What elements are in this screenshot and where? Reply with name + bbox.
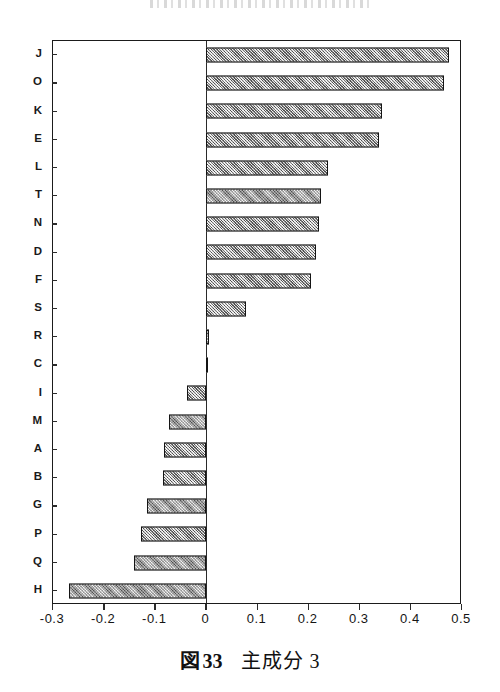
- caption-label: 図: [180, 650, 201, 672]
- bar-A: [164, 442, 206, 457]
- bar-P: [141, 527, 206, 542]
- plot-frame: [52, 40, 461, 604]
- y-axis-label-A: A: [0, 443, 42, 455]
- bar-row: [53, 577, 460, 605]
- bar-R: [206, 330, 209, 345]
- y-axis-tick: [52, 364, 57, 365]
- y-axis-tick: [52, 308, 57, 309]
- y-axis-tick: [52, 336, 57, 337]
- figure-caption: 図33主成分 3: [0, 645, 500, 674]
- y-axis-label-N: N: [0, 217, 42, 229]
- bar-row: [53, 267, 460, 295]
- bar-N: [206, 217, 319, 232]
- y-axis-tick: [52, 590, 57, 591]
- y-axis-label-K: K: [0, 105, 42, 117]
- bar-row: [53, 154, 460, 182]
- y-axis-label-C: C: [0, 358, 42, 370]
- bar-M: [169, 414, 207, 429]
- bar-row: [53, 295, 460, 323]
- x-axis-tick: [359, 604, 360, 610]
- y-axis-label-R: R: [0, 330, 42, 342]
- y-axis-tick: [52, 252, 57, 253]
- x-axis-tick: [205, 604, 206, 610]
- x-axis-tick: [52, 604, 53, 610]
- y-axis-tick: [52, 167, 57, 168]
- y-axis-tick: [52, 477, 57, 478]
- y-axis-label-H: H: [0, 584, 42, 596]
- y-axis-label-F: F: [0, 274, 42, 286]
- bar-row: [53, 379, 460, 407]
- bar-F: [206, 273, 311, 288]
- y-axis-label-P: P: [0, 528, 42, 540]
- bar-S: [206, 301, 246, 316]
- x-axis-tick: [308, 604, 309, 610]
- bar-B: [163, 471, 206, 486]
- bar-D: [206, 245, 316, 260]
- x-axis-tick: [257, 604, 258, 610]
- bar-row: [53, 323, 460, 351]
- caption-title: 主成分 3: [241, 650, 321, 672]
- y-axis-tick: [52, 82, 57, 83]
- bar-G: [147, 499, 207, 514]
- bar-row: [53, 464, 460, 492]
- y-axis-tick: [52, 421, 57, 422]
- y-axis-tick: [52, 534, 57, 535]
- y-axis-tick: [52, 280, 57, 281]
- bar-row: [53, 97, 460, 125]
- y-axis-label-J: J: [0, 48, 42, 60]
- y-axis-tick: [52, 111, 57, 112]
- y-axis-tick: [52, 449, 57, 450]
- bar-Q: [134, 555, 206, 570]
- y-axis-label-T: T: [0, 189, 42, 201]
- x-axis-tick: [103, 604, 104, 610]
- bar-row: [53, 351, 460, 379]
- bar-I: [187, 386, 206, 401]
- bar-row: [53, 182, 460, 210]
- bar-J: [206, 48, 448, 63]
- bar-row: [53, 126, 460, 154]
- y-axis-label-M: M: [0, 415, 42, 427]
- x-axis-tick: [461, 604, 462, 610]
- y-axis-tick: [52, 54, 57, 55]
- y-axis-label-G: G: [0, 499, 42, 511]
- x-axis-label-0.5: 0.5: [431, 611, 491, 626]
- bar-row: [53, 408, 460, 436]
- bar-L: [206, 160, 328, 175]
- figure-principal-component-3: JOKELTNDFSRCIMABGPQH -0.3-0.2-0.100.10.2…: [0, 0, 500, 692]
- bar-row: [53, 492, 460, 520]
- y-axis-tick: [52, 393, 57, 394]
- y-axis-label-Q: Q: [0, 556, 42, 568]
- x-axis-tick: [410, 604, 411, 610]
- y-axis-label-L: L: [0, 161, 42, 173]
- bar-row: [53, 210, 460, 238]
- bar-C: [206, 358, 208, 373]
- caption-number: 33: [203, 650, 223, 672]
- y-axis-label-E: E: [0, 133, 42, 145]
- bar-row: [53, 238, 460, 266]
- bar-H: [69, 583, 207, 598]
- y-axis-label-S: S: [0, 302, 42, 314]
- bar-row: [53, 549, 460, 577]
- y-axis-label-I: I: [0, 387, 42, 399]
- bar-E: [206, 132, 379, 147]
- bar-row: [53, 41, 460, 69]
- y-axis-tick: [52, 139, 57, 140]
- y-axis-label-O: O: [0, 76, 42, 88]
- y-axis-label-D: D: [0, 246, 42, 258]
- y-axis-tick: [52, 562, 57, 563]
- y-axis-tick: [52, 195, 57, 196]
- bar-row: [53, 436, 460, 464]
- bar-K: [206, 104, 382, 119]
- x-axis-tick: [154, 604, 155, 610]
- bar-row: [53, 520, 460, 548]
- y-axis-label-B: B: [0, 471, 42, 483]
- y-axis-tick: [52, 505, 57, 506]
- bar-O: [206, 76, 444, 91]
- bar-row: [53, 69, 460, 97]
- y-axis-tick: [52, 223, 57, 224]
- bar-T: [206, 189, 321, 204]
